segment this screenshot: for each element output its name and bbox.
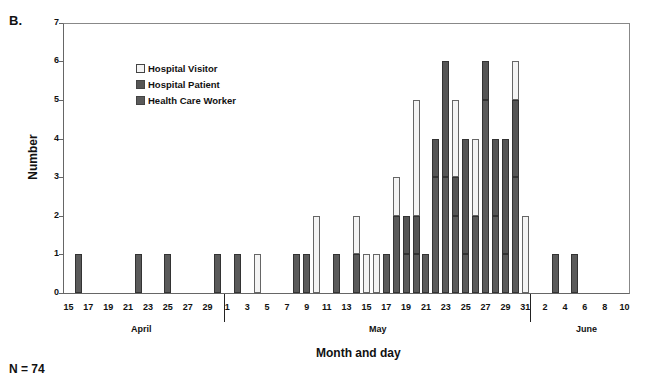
visitor-segment [373,254,380,293]
patient-segment [403,216,410,255]
patient-segment [462,139,469,255]
x-tick-label: 29 [495,302,515,312]
bar-may-23 [452,100,459,293]
legend-label: Hospital Visitor [148,63,218,74]
x-tick-label: 8 [595,302,615,312]
bar-jun-2 [552,254,559,293]
bar-may-24 [462,139,469,293]
visitor-segment [353,216,360,255]
visitor-segment [413,100,420,216]
x-tick-label: 23 [138,302,158,312]
x-tick-label: 31 [515,302,535,312]
bar-may-27 [492,139,499,293]
x-tick-label: 7 [277,302,297,312]
legend-label: Health Care Worker [148,95,236,106]
visitor-segment [313,216,320,293]
patient-segment [512,100,519,177]
visitor-segment [472,139,479,216]
bar-apr-16 [75,254,82,293]
visitor-swatch-icon [136,64,145,73]
month-separator [530,294,531,322]
bar-may-22 [442,61,449,293]
x-tick-label: 21 [118,302,138,312]
bar-may-9 [313,216,320,293]
x-tick-label: 2 [535,302,555,312]
y-tick-label: 1 [45,248,59,258]
legend-item-visitor: Hospital Visitor [136,60,236,76]
x-tick-label: 5 [257,302,277,312]
month-label-april: April [131,324,152,334]
x-tick-label: 1 [217,302,237,312]
bar-may-14 [363,254,370,293]
patient-segment [482,61,489,100]
hcw-segment [462,254,469,293]
patient-segment [452,177,459,216]
x-tick-label: 9 [297,302,317,312]
y-tick-label: 0 [45,287,59,297]
hcw-segment [353,254,360,293]
x-tick-label: 15 [356,302,376,312]
patient-segment [442,61,449,177]
bar-may-7 [293,254,300,293]
patient-swatch-icon [136,80,145,89]
legend-item-patient: Hospital Patient [136,76,236,92]
patient-segment [492,139,499,216]
month-label-may: May [369,324,387,334]
x-tick-label: 19 [98,302,118,312]
hcw-segment [234,254,241,293]
x-tick-label: 23 [436,302,456,312]
hcw-segment [552,254,559,293]
month-label-june: June [576,324,597,334]
hcw-segment [135,254,142,293]
hcw-segment [571,254,578,293]
bar-may-19 [413,100,420,293]
x-tick-label: 27 [476,302,496,312]
bar-may-29 [512,61,519,293]
y-axis-label: Number [26,122,40,192]
bar-may-26 [482,61,489,293]
x-tick-label: 17 [78,302,98,312]
hcw-segment [512,177,519,293]
month-separator [224,294,225,322]
hcw-segment [502,254,509,293]
visitor-segment [452,100,459,177]
x-tick-label: 3 [237,302,257,312]
bar-may-15 [373,254,380,293]
hcw-segment [452,216,459,293]
panel-label: B. [9,13,22,28]
x-tick-label: 15 [59,302,79,312]
bar-may-13 [353,216,360,293]
visitor-segment [522,216,529,293]
hcw-segment [492,216,499,293]
hcw-segment [472,216,479,293]
x-tick-label: 21 [416,302,436,312]
bar-may-28 [502,139,509,293]
hcw-segment [403,254,410,293]
bar-may-16 [383,254,390,293]
legend: Hospital Visitor Hospital Patient Health… [136,60,236,108]
x-tick-label: 25 [158,302,178,312]
hcw-segment [432,177,439,293]
bar-may-21 [432,139,439,293]
hcw-segment [442,177,449,293]
bar-apr-30 [214,254,221,293]
visitor-segment [393,177,400,216]
bar-jun-4 [571,254,578,293]
visitor-segment [363,254,370,293]
y-tick-label: 6 [45,55,59,65]
visitor-segment [254,254,261,293]
x-tick-label: 6 [575,302,595,312]
hcw-segment [333,254,340,293]
x-tick-label: 13 [337,302,357,312]
y-tick-label: 2 [45,210,59,220]
bar-may-20 [422,254,429,293]
bar-may-8 [303,254,310,293]
hcw-segment [482,100,489,293]
hcw-segment [383,254,390,293]
hcw-segment [293,254,300,293]
bar-may-11 [333,254,340,293]
bar-may-30 [522,216,529,293]
y-tick-label: 3 [45,171,59,181]
x-tick-label: 29 [198,302,218,312]
y-tick-label: 7 [45,17,59,27]
